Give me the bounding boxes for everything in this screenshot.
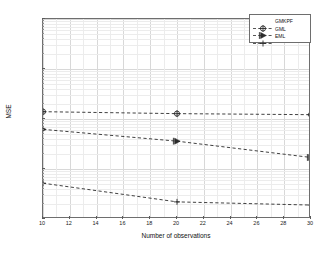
x-tick-mark xyxy=(310,216,311,219)
legend-sample-gml xyxy=(252,25,274,32)
y-axis-title: MSE xyxy=(5,92,12,132)
x-tick-label: 22 xyxy=(200,220,206,226)
data-point-marker-plus xyxy=(260,40,266,46)
legend-sample-gmkpf xyxy=(252,18,274,25)
legend-item-gml[interactable]: GML xyxy=(252,25,308,32)
y-tick-mark-minor xyxy=(42,123,44,124)
x-tick-mark xyxy=(122,216,123,219)
y-tick-mark-minor xyxy=(42,53,44,54)
legend-sample-eml xyxy=(252,33,274,40)
legend-item-gmkpf[interactable]: GMKPF xyxy=(252,18,308,25)
x-tick-mark xyxy=(96,216,97,219)
x-tick-label: 18 xyxy=(146,220,152,226)
x-axis-title: Number of observations xyxy=(42,232,310,239)
data-point-marker-plus xyxy=(308,202,310,208)
x-tick-mark xyxy=(283,216,284,219)
y-tick-mark-minor xyxy=(42,173,44,174)
data-point-marker-right-triangle xyxy=(173,138,180,145)
x-tick-label: 28 xyxy=(280,220,286,226)
y-tick-mark-minor xyxy=(42,103,44,104)
y-tick-mark-minor xyxy=(42,144,44,145)
x-tick-mark xyxy=(230,216,231,219)
data-point-marker-circle-plus xyxy=(174,110,181,117)
y-tick-mark-minor xyxy=(42,38,44,39)
legend-label: GML xyxy=(275,26,286,32)
x-tick-mark xyxy=(256,216,257,219)
x-tick-mark xyxy=(149,216,150,219)
y-tick-mark-minor xyxy=(42,129,44,130)
y-tick-mark-minor xyxy=(42,153,44,154)
x-tick-label: 24 xyxy=(227,220,233,226)
y-tick-mark-minor xyxy=(42,88,44,89)
legend-item-eml[interactable]: EML xyxy=(252,33,308,40)
y-tick-mark-minor xyxy=(42,194,44,195)
y-tick-mark-minor xyxy=(42,33,44,34)
series-layer xyxy=(43,19,310,218)
x-tick-label: 26 xyxy=(253,220,259,226)
data-point-marker-right-triangle xyxy=(307,154,310,161)
plot-area xyxy=(42,18,310,218)
x-tick-label: 30 xyxy=(307,220,313,226)
y-tick-mark-minor xyxy=(42,73,44,74)
y-tick-mark-minor xyxy=(42,133,44,134)
x-tick-label: 12 xyxy=(66,220,72,226)
y-tick-mark xyxy=(42,118,45,119)
x-tick-mark xyxy=(176,216,177,219)
legend: GMKPFGMLEML xyxy=(249,14,311,43)
y-tick-mark-minor xyxy=(42,76,44,77)
y-tick-mark-minor xyxy=(42,23,44,24)
y-tick-mark-minor xyxy=(42,203,44,204)
y-tick-mark-minor xyxy=(42,188,44,189)
y-tick-mark-minor xyxy=(42,20,44,21)
y-tick-mark-minor xyxy=(42,44,44,45)
figure-canvas: 1012141618202224262830 10010-110-210-310… xyxy=(0,0,323,256)
legend-label: GMKPF xyxy=(275,18,293,24)
y-tick-mark xyxy=(42,168,45,169)
y-tick-mark-minor xyxy=(42,26,44,27)
y-tick-mark-minor xyxy=(42,176,44,177)
x-tick-label: 16 xyxy=(119,220,125,226)
y-tick-mark-minor xyxy=(42,79,44,80)
y-tick-mark xyxy=(42,18,45,19)
y-tick-mark-minor xyxy=(42,138,44,139)
data-point-marker-circle-plus xyxy=(308,111,310,118)
y-tick-mark xyxy=(42,218,45,219)
legend-label: EML xyxy=(275,33,285,39)
y-tick-mark-minor xyxy=(42,29,44,30)
data-point-marker-plus xyxy=(174,199,180,205)
data-point-marker-circle-plus xyxy=(43,108,46,115)
y-tick-mark-minor xyxy=(42,83,44,84)
x-tick-mark xyxy=(69,216,70,219)
y-tick-mark-minor xyxy=(42,183,44,184)
y-tick-mark-minor xyxy=(42,94,44,95)
x-tick-label: 14 xyxy=(93,220,99,226)
y-tick-mark-minor xyxy=(42,170,44,171)
x-tick-label: 20 xyxy=(173,220,179,226)
y-tick-mark xyxy=(42,68,45,69)
y-tick-mark-minor xyxy=(42,179,44,180)
y-tick-mark-minor xyxy=(42,120,44,121)
y-tick-mark-minor xyxy=(42,70,44,71)
x-tick-mark xyxy=(203,216,204,219)
series-line-gmkpf xyxy=(43,112,310,115)
y-tick-mark-minor xyxy=(42,126,44,127)
